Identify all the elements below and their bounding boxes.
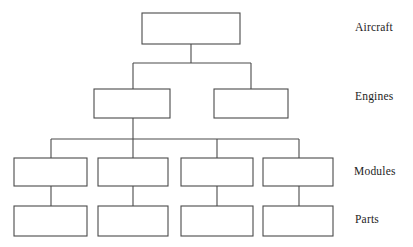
node-box-module-1[interactable] <box>14 158 87 186</box>
level-aircraft-nodes <box>142 13 240 44</box>
level-label-modules: Modules <box>354 165 396 177</box>
level-parts-nodes <box>14 206 333 236</box>
node-box-engine-1[interactable] <box>94 89 170 118</box>
diagram-canvas <box>0 0 413 247</box>
level-label-aircraft: Aircraft <box>355 21 393 33</box>
level-label-engines: Engines <box>355 90 393 102</box>
hierarchy-diagram: Aircraft Engines Modules Parts <box>0 0 413 247</box>
node-box-module-4[interactable] <box>263 158 333 186</box>
connector-group-aircraft-to-engines <box>133 44 251 89</box>
node-box-part-4[interactable] <box>263 206 333 236</box>
node-box-module-3[interactable] <box>181 158 253 186</box>
level-label-parts: Parts <box>355 213 379 225</box>
connector-group-modules-to-parts <box>51 186 299 206</box>
node-box-aircraft-1[interactable] <box>142 13 240 44</box>
node-box-part-3[interactable] <box>181 206 253 236</box>
node-box-module-2[interactable] <box>98 158 168 186</box>
connector-group-engine-to-modules <box>51 118 299 158</box>
node-box-part-2[interactable] <box>98 206 168 236</box>
level-modules-nodes <box>14 158 333 186</box>
node-box-part-1[interactable] <box>14 206 87 236</box>
level-engines-nodes <box>94 89 288 118</box>
node-box-engine-2[interactable] <box>214 89 288 118</box>
